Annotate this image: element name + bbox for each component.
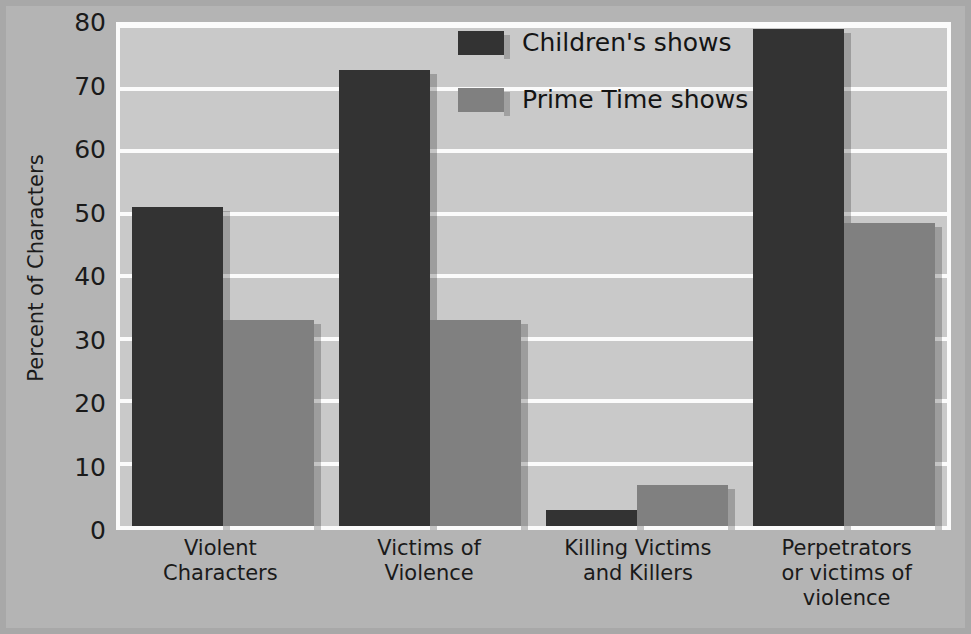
x-axis-category-line: Violence	[329, 561, 530, 586]
x-axis-category-line: Perpetrators	[746, 536, 947, 561]
bar[interactable]	[339, 70, 430, 526]
x-axis-category-label: ViolentCharacters	[116, 536, 325, 610]
legend-label: Prime Time shows	[522, 85, 748, 114]
bar[interactable]	[430, 320, 521, 526]
x-axis-category-line: violence	[746, 586, 947, 611]
x-axis-category-label: Killing Victimsand Killers	[534, 536, 743, 610]
x-axis-category-line: Characters	[120, 561, 321, 586]
y-axis-tick-10: 10	[74, 454, 106, 479]
legend-label: Children's shows	[522, 28, 732, 57]
x-axis-category-label: Victims ofViolence	[325, 536, 534, 610]
bar[interactable]	[546, 510, 637, 526]
bar[interactable]	[637, 485, 728, 526]
bar-group	[120, 26, 327, 526]
bar-chart-figure: Percent of Characters 01020304050607080 …	[0, 0, 971, 634]
legend-item[interactable]: Prime Time shows	[458, 85, 748, 114]
y-axis-tick-70: 70	[74, 73, 106, 98]
bar[interactable]	[753, 29, 844, 526]
x-axis-category-line: and Killers	[538, 561, 739, 586]
y-axis-tick-labels: 01020304050607080	[46, 22, 106, 530]
y-axis-tick-60: 60	[74, 137, 106, 162]
bar[interactable]	[132, 207, 223, 526]
chart-legend: Children's showsPrime Time shows	[458, 28, 748, 142]
x-axis-category-line: Killing Victims	[538, 536, 739, 561]
legend-swatch	[458, 31, 504, 55]
y-axis-tick-80: 80	[74, 10, 106, 35]
bar-group	[740, 26, 947, 526]
x-axis-category-line: or victims of	[746, 561, 947, 586]
y-axis-tick-20: 20	[74, 391, 106, 416]
y-axis-tick-0: 0	[90, 518, 106, 543]
bar[interactable]	[223, 320, 314, 526]
bar[interactable]	[844, 223, 935, 526]
y-axis-tick-50: 50	[74, 200, 106, 225]
y-axis-tick-40: 40	[74, 264, 106, 289]
x-axis-category-line: Violent	[120, 536, 321, 561]
legend-item[interactable]: Children's shows	[458, 28, 748, 57]
x-axis-category-label: Perpetratorsor victims ofviolence	[742, 536, 951, 610]
x-axis-category-line: Victims of	[329, 536, 530, 561]
legend-swatch	[458, 88, 504, 112]
y-axis-tick-30: 30	[74, 327, 106, 352]
y-axis-title: Percent of Characters	[24, 118, 48, 418]
x-axis-tick-labels: ViolentCharactersVictims ofViolenceKilli…	[116, 536, 951, 610]
